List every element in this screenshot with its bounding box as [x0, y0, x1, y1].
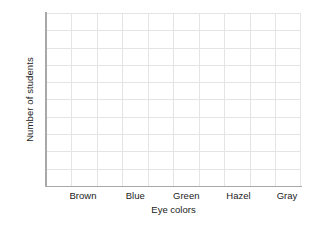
x-tick-label-brown: Brown — [70, 189, 97, 202]
grid-right-edge — [300, 13, 301, 186]
x-tick-label-gray: Gray — [277, 189, 298, 202]
x-tick-label-green: Green — [173, 189, 199, 202]
x-tick-label-hazel: Hazel — [226, 189, 250, 202]
x-axis-line — [45, 186, 302, 188]
x-tick-label-blue: Blue — [126, 189, 145, 202]
grid-top-edge — [46, 13, 301, 14]
plot-area — [46, 13, 301, 186]
y-axis-title: Number of students — [23, 13, 37, 186]
grid-lines — [46, 13, 301, 186]
y-axis-line — [45, 12, 47, 187]
bar-chart-figure: Number of students Brown Blue Green Haze… — [0, 0, 318, 227]
x-axis-title: Eye colors — [46, 203, 301, 216]
x-axis-tick-labels: Brown Blue Green Hazel Gray — [46, 189, 301, 202]
